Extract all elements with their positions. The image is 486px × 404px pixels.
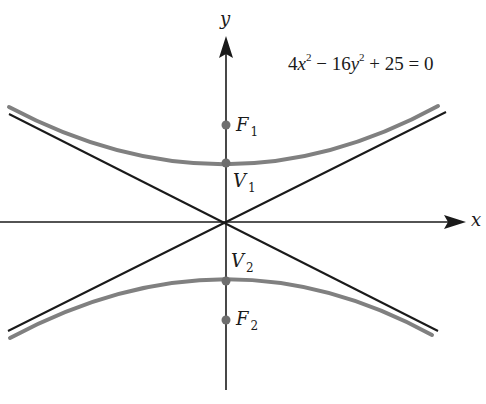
focus-2-point [222,316,231,325]
vertex-2-subscript: 2 [246,261,254,275]
focus-1-label: F1 [236,114,258,135]
equation-var-y: y [351,53,359,74]
focus-2-subscript: 2 [251,319,259,333]
vertex-2-letter: V [231,250,244,271]
equation-coef-x: 4 [288,53,298,74]
hyperbola-diagram: y x F1 V1 V2 F2 4x2 − 16y2 + 25 = 0 [0,0,486,404]
vertex-1-subscript: 1 [248,181,256,195]
equation-constant: + 25 = 0 [365,53,434,74]
x-axis-label: x [471,209,481,230]
focus-1-point [222,121,231,130]
hyperbola-equation: 4x2 − 16y2 + 25 = 0 [288,53,434,75]
equation-coef-y: − 16 [311,53,350,74]
vertex-2-point [222,277,231,286]
vertex-1-point [222,159,231,168]
equation-exp-x: 2 [306,51,312,63]
focus-1-subscript: 1 [251,125,259,139]
vertex-1-label: V1 [233,170,256,191]
focus-2-letter: F [236,308,249,329]
vertex-2-label: V2 [231,250,254,271]
hyperbola-upper-branch [9,106,438,164]
focus-2-label: F2 [236,308,258,329]
equation-exp-y: 2 [359,51,365,63]
vertex-1-letter: V [233,170,246,191]
focus-1-letter: F [236,114,249,135]
equation-var-x: x [298,53,306,74]
hyperbola-lower-branch [10,279,432,338]
y-axis-label: y [220,8,230,29]
